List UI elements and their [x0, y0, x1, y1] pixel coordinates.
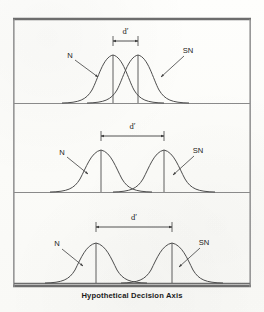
signal-detection-figure: d′ N SN d′ N SN	[0, 0, 264, 312]
panel-top-dprime-arrow	[113, 36, 138, 46]
figure-page: d′ N SN d′ N SN	[0, 0, 264, 312]
panel-top: d′ N SN	[14, 26, 250, 104]
panel-bottom-dprime-arrow	[96, 222, 172, 232]
panel-middle-dprime-label: d′	[129, 121, 135, 131]
panel-middle-noise-pointer	[67, 157, 88, 174]
panel-bottom-dprime-label: d′	[131, 212, 137, 222]
panel-top-signal-label: SN	[183, 46, 194, 55]
panel-bottom-noise-pointer	[62, 249, 83, 266]
panel-bottom: d′ N SN	[14, 212, 250, 284]
panel-middle: d′ N SN	[14, 121, 250, 193]
panel-bottom-noise-label: N	[54, 239, 59, 248]
panel-bottom-signal-label: SN	[199, 238, 210, 247]
panel-top-noise-pointer	[75, 60, 98, 77]
panel-middle-noise-label: N	[59, 148, 64, 157]
panel-middle-dprime-arrow	[101, 131, 164, 141]
panel-top-noise-label: N	[67, 51, 72, 60]
panel-middle-signal-label: SN	[193, 146, 204, 155]
panel-top-dprime-label: d′	[122, 26, 128, 36]
panel-top-signal-pointer	[161, 56, 184, 77]
figure-caption: Hypothetical Decision Axis	[0, 291, 264, 300]
panel-middle-signal-pointer	[173, 156, 194, 175]
